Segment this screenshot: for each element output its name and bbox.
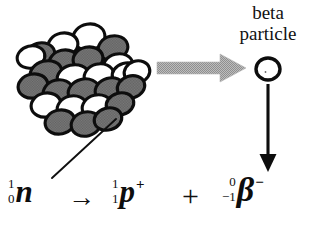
beta-charge: − [255,175,264,190]
emission-arrow-icon [157,54,246,82]
proton-atomic-number: 1 [112,192,119,205]
beta-particle-icon [256,58,280,80]
plus-operator-glyph: + [182,182,199,209]
beta-decay-diagram: beta particle 1 0 n → 1 1 p + + [0,0,316,227]
nuclear-decay-equation: 1 0 n → 1 1 p + + 0 −1 β − [0,166,316,224]
yields-arrow-glyph: → [68,184,95,211]
proton-prescript: 1 1 [112,177,119,205]
caption-line-1: beta [214,2,316,23]
equation-term-neutron: 1 0 n [8,176,33,207]
equation-term-proton: 1 1 p + [112,176,145,207]
proton-symbol: p [120,176,136,207]
proton-mass-number: 1 [112,177,119,190]
neutron-prescript: 1 0 [8,177,15,205]
caption-line-2: particle [214,23,316,44]
beta-mass-number: 0 [229,175,236,188]
beta-atomic-number: −1 [222,190,236,203]
beta-particle-caption: beta particle [214,2,316,44]
neutron-mass-number: 1 [8,177,15,190]
beta-symbol: β [237,174,254,205]
atomic-nucleus [15,21,153,139]
equation-term-beta: 0 −1 β − [222,174,264,205]
neutron-symbol: n [16,176,33,207]
neutron-atomic-number: 0 [8,192,15,205]
proton-charge: + [136,177,145,192]
beta-path-arrow-icon [260,84,277,172]
beta-prescript: 0 −1 [222,175,236,203]
